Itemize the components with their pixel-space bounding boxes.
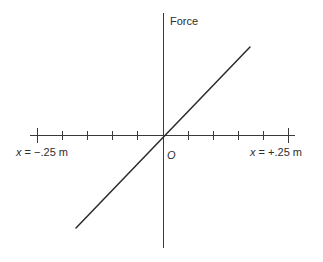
x-axis-right-label: x = +.25 m <box>250 147 302 158</box>
y-axis-label: Force <box>170 16 198 27</box>
force-vs-position-figure: Force x = −.25 m x = +.25 m O <box>0 0 323 262</box>
x-value-left: = −.25 m <box>22 146 68 158</box>
x-value-right: = +.25 m <box>256 146 302 158</box>
plot-canvas <box>0 0 323 262</box>
origin-label: O <box>167 150 176 161</box>
x-axis-left-label: x = −.25 m <box>16 147 68 158</box>
